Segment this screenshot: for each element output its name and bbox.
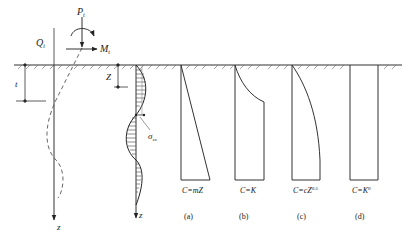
depth-dimension bbox=[114, 64, 128, 89]
panel-c-caption: (c) bbox=[297, 212, 306, 221]
panel-b-caption: (b) bbox=[239, 212, 249, 221]
embedment-dimension bbox=[16, 64, 46, 103]
stress-label: σzx bbox=[148, 131, 157, 142]
z-label-mid: z bbox=[138, 210, 143, 220]
z-label-left: z bbox=[56, 222, 61, 232]
panel-c bbox=[292, 65, 320, 180]
panel-d-caption: (d) bbox=[355, 212, 365, 221]
deflection-curve bbox=[47, 48, 82, 198]
panel-c-formula: C=cZ0.5 bbox=[293, 186, 318, 195]
panel-d bbox=[350, 65, 378, 180]
panel-b bbox=[235, 65, 264, 180]
panel-a-caption: (a) bbox=[184, 212, 193, 221]
panel-a-formula: C=mZ bbox=[182, 186, 204, 195]
panel-b-formula: C=K bbox=[240, 186, 257, 195]
axial-load-label: Pt bbox=[76, 6, 85, 18]
stress-leader-line bbox=[140, 117, 150, 130]
panel-a bbox=[181, 65, 210, 180]
shear-load-label: Qt bbox=[36, 37, 45, 49]
t-label: t bbox=[15, 79, 18, 89]
deflected-pile: z t Qt Pt Mt bbox=[15, 6, 110, 232]
Z-label: Z bbox=[106, 72, 112, 82]
moment-label: Mt bbox=[99, 43, 110, 55]
stress-distribution: z Z σz bbox=[106, 64, 157, 220]
panel-d-formula: C=K0 bbox=[352, 186, 371, 195]
pile-diagram: z t Qt Pt Mt z bbox=[0, 0, 414, 237]
